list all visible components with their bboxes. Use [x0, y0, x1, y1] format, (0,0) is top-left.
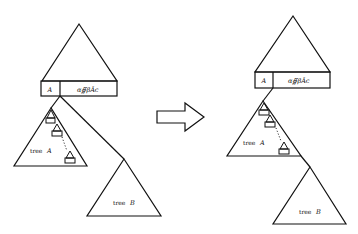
right-arrow-icon — [157, 103, 204, 131]
before-tree-a-var: A — [46, 147, 52, 155]
before-diagram — [14, 24, 161, 216]
before-tree-a-path-nodes — [46, 110, 75, 163]
after-link-to-tree-a — [263, 88, 273, 101]
before-tree-b-label: tree — [113, 199, 126, 206]
after-node-label: A — [261, 77, 267, 85]
after-tree-a-label: tree — [243, 139, 256, 146]
after-tree-b — [273, 167, 346, 224]
after-tree-b-label: tree — [299, 208, 312, 215]
before-link-to-tree-b — [60, 96, 124, 159]
before-top-triangle — [42, 24, 117, 81]
before-tree-a — [14, 108, 87, 166]
after-diagram — [227, 16, 346, 224]
before-tree-b — [87, 159, 161, 216]
after-tree-a-var: A — [259, 139, 265, 147]
after-top-triangle — [255, 16, 330, 72]
after-tree-b-var: B — [315, 208, 321, 216]
tree-transformation-diagram: A α∯βÂc tree A tree B A α∯βÂc tree A tre… — [0, 0, 358, 234]
before-tree-a-label: tree — [30, 147, 43, 154]
before-node-label: A — [47, 86, 53, 94]
after-node-string: α∯βÂc — [288, 76, 310, 85]
after-tree-a — [227, 101, 301, 156]
before-node-string: α∯βÂc — [77, 85, 99, 94]
before-link-to-tree-a — [51, 96, 60, 108]
before-tree-b-var: B — [129, 199, 135, 207]
after-link-tree-a-to-tree-b — [301, 156, 310, 167]
